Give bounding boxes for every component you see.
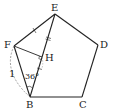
- segment-DC: [82, 45, 98, 97]
- tick-mark-EH-2: [46, 39, 51, 41]
- angle-arc-B: [27, 86, 33, 88]
- label-E: E: [51, 2, 58, 13]
- segment-FH: [14, 46, 42, 57]
- label-C: C: [79, 99, 87, 110]
- side-length-label: 1: [9, 68, 15, 79]
- label-H: H: [45, 52, 54, 63]
- segment-ED: [55, 14, 98, 45]
- label-B: B: [26, 99, 33, 110]
- geometry-figure: E D C B F H 1 36°: [0, 0, 114, 111]
- label-F: F: [4, 39, 11, 50]
- pentagon-diagram: E D C B F H 1 36°: [0, 0, 114, 111]
- label-D: D: [100, 39, 108, 50]
- angle-label: 36°: [25, 72, 39, 81]
